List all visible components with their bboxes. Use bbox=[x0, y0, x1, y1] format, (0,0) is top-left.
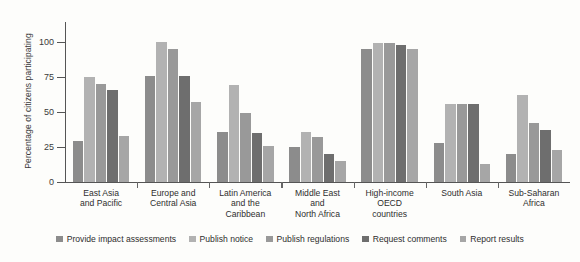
x-axis-label: Europe andCentral Asia bbox=[137, 188, 209, 209]
bar-group bbox=[354, 22, 426, 182]
bar bbox=[84, 77, 95, 182]
legend-swatch-icon bbox=[460, 236, 467, 243]
x-axis-label-line: and bbox=[281, 198, 353, 208]
x-axis-label: Sub-SaharanAfrica bbox=[498, 188, 570, 209]
y-tick-mark bbox=[57, 147, 65, 148]
legend-item[interactable]: Provide impact assessments bbox=[56, 234, 176, 244]
legend-label: Provide impact assessments bbox=[67, 234, 176, 244]
x-axis-label-line: Africa bbox=[498, 198, 570, 208]
y-tick-mark bbox=[57, 42, 65, 43]
bar bbox=[191, 102, 202, 182]
legend-swatch-icon bbox=[266, 236, 273, 243]
x-axis-label-line: countries bbox=[354, 209, 426, 219]
x-axis-label: Latin Americaand theCaribbean bbox=[209, 188, 281, 219]
x-axis-label-line: Central Asia bbox=[137, 198, 209, 208]
bar bbox=[156, 42, 167, 182]
bar bbox=[301, 132, 312, 182]
legend-label: Publish regulations bbox=[277, 234, 350, 244]
x-axis-label-line: Sub-Saharan bbox=[498, 188, 570, 198]
chart-legend: Provide impact assessmentsPublish notice… bbox=[0, 234, 580, 244]
bar bbox=[107, 90, 118, 182]
x-axis-label: East Asiaand Pacific bbox=[65, 188, 137, 209]
bar bbox=[517, 95, 528, 182]
x-axis-label: South Asia bbox=[426, 188, 498, 198]
bar bbox=[263, 146, 274, 182]
bar bbox=[179, 76, 190, 182]
legend-swatch-icon bbox=[189, 236, 196, 243]
y-tick-mark bbox=[57, 77, 65, 78]
x-axis-label-line: Latin America bbox=[209, 188, 281, 198]
bar bbox=[240, 113, 251, 182]
x-axis-label-line: Middle East bbox=[281, 188, 353, 198]
x-axis-label: Middle EastandNorth Africa bbox=[281, 188, 353, 219]
bar bbox=[506, 154, 517, 182]
bar-chart: Percentage of citizens participating 025… bbox=[0, 0, 580, 262]
bar bbox=[252, 133, 263, 182]
bar bbox=[361, 49, 372, 182]
x-axis-label-line: High-income bbox=[354, 188, 426, 198]
bar bbox=[217, 132, 228, 182]
legend-item[interactable]: Publish notice bbox=[189, 234, 253, 244]
bar bbox=[480, 164, 491, 182]
bar bbox=[324, 154, 335, 182]
bar-group bbox=[281, 22, 353, 182]
bar bbox=[445, 104, 456, 182]
x-axis-label: High-incomeOECDcountries bbox=[354, 188, 426, 219]
bar-group bbox=[65, 22, 137, 182]
bar bbox=[229, 85, 240, 182]
bar bbox=[289, 147, 300, 182]
legend-item[interactable]: Publish regulations bbox=[266, 234, 349, 244]
bar bbox=[396, 45, 407, 182]
legend-item[interactable]: Request comments bbox=[362, 234, 447, 244]
x-axis-label-line: Europe and bbox=[137, 188, 209, 198]
y-axis-title: Percentage of citizens participating bbox=[23, 11, 33, 191]
y-tick-mark bbox=[57, 112, 65, 113]
bar-group bbox=[137, 22, 209, 182]
bar bbox=[384, 43, 395, 182]
y-tick-label: 50 bbox=[44, 107, 54, 117]
y-tick-label: 100 bbox=[39, 37, 54, 47]
x-axis-line bbox=[65, 182, 570, 183]
bar bbox=[468, 104, 479, 182]
x-axis-label-line: and Pacific bbox=[65, 198, 137, 208]
bar bbox=[73, 141, 84, 182]
y-tick-label: 0 bbox=[49, 177, 54, 187]
bar-group bbox=[209, 22, 281, 182]
bar bbox=[145, 76, 156, 182]
x-axis-label-line: North Africa bbox=[281, 209, 353, 219]
bar bbox=[457, 104, 468, 182]
bar bbox=[119, 136, 130, 182]
legend-swatch-icon bbox=[56, 236, 63, 243]
bar bbox=[552, 150, 563, 182]
bar bbox=[434, 143, 445, 182]
y-tick-label: 75 bbox=[44, 72, 54, 82]
bar bbox=[312, 137, 323, 182]
bar bbox=[407, 49, 418, 182]
bar bbox=[96, 84, 107, 182]
bar-group bbox=[426, 22, 498, 182]
bar bbox=[540, 130, 551, 182]
x-axis-label-line: OECD bbox=[354, 198, 426, 208]
x-axis-label-line: East Asia bbox=[65, 188, 137, 198]
legend-swatch-icon bbox=[362, 236, 369, 243]
bar bbox=[168, 49, 179, 182]
legend-item[interactable]: Report results bbox=[460, 234, 524, 244]
legend-label: Request comments bbox=[373, 234, 447, 244]
bar bbox=[529, 123, 540, 182]
y-tick-mark bbox=[57, 182, 65, 183]
bar bbox=[373, 43, 384, 182]
bar-group bbox=[498, 22, 570, 182]
legend-label: Report results bbox=[470, 234, 524, 244]
y-tick-label: 25 bbox=[44, 142, 54, 152]
x-axis-label-line: South Asia bbox=[426, 188, 498, 198]
legend-label: Publish notice bbox=[200, 234, 254, 244]
x-axis-label-line: Caribbean bbox=[209, 209, 281, 219]
x-axis-label-line: and the bbox=[209, 198, 281, 208]
plot-area: 0255075100 bbox=[65, 22, 570, 182]
bar bbox=[335, 161, 346, 182]
